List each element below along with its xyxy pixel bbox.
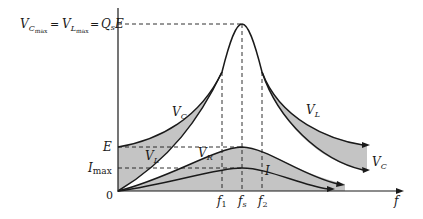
origin-label: 0 bbox=[106, 189, 113, 202]
vl-right-label: VL bbox=[306, 103, 320, 119]
svg-text:VLmax: VLmax bbox=[62, 17, 89, 34]
i-label: I bbox=[264, 164, 270, 178]
e-label: E bbox=[102, 140, 112, 154]
vcmax-formula: VCmax = VLmax = QsE bbox=[20, 17, 124, 34]
fs-label: fs bbox=[237, 194, 247, 209]
imax-label: Imax bbox=[87, 161, 112, 176]
f-axis-label: f bbox=[393, 194, 401, 208]
f2-label: f2 bbox=[257, 194, 268, 209]
right-shade-band bbox=[262, 72, 367, 170]
svg-text:VCmax: VCmax bbox=[20, 17, 48, 34]
svg-text:=: = bbox=[50, 18, 59, 31]
vc-right-label: VC bbox=[372, 155, 387, 171]
svg-text:=: = bbox=[90, 18, 99, 31]
f1-label: f1 bbox=[216, 194, 227, 209]
resonance-diagram: VCmax = VLmax = QsE E Imax 0 f1 fs f2 f … bbox=[0, 0, 423, 219]
vr-label: VR bbox=[198, 146, 213, 162]
vc-left-label: VC bbox=[172, 105, 187, 121]
svg-text:QsE: QsE bbox=[101, 17, 124, 32]
